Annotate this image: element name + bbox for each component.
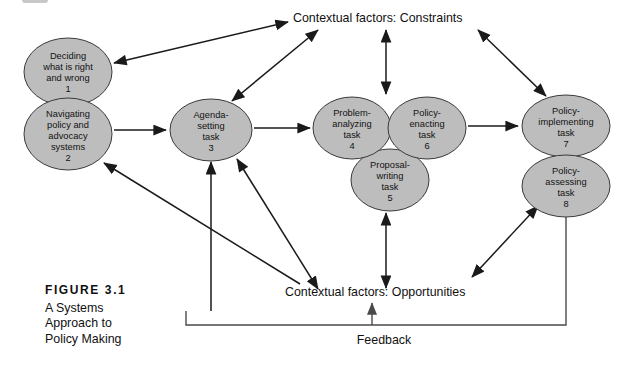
node-policy-assessing-task[interactable]: Policy- assessing task 8 — [522, 155, 610, 217]
node-1-line-2: and wrong — [46, 73, 89, 83]
node-6-line-1: enacting — [409, 119, 444, 129]
node-2-line-1: policy and — [47, 120, 89, 130]
edge-feedback-loop — [186, 217, 566, 325]
node-3-line-2: task — [202, 132, 219, 142]
figure-title-line-0: A Systems — [45, 301, 185, 317]
node-agenda-setting-task[interactable]: Agenda- setting task 3 — [170, 99, 252, 161]
node-3-number: 3 — [208, 143, 213, 153]
node-8-number: 8 — [563, 199, 568, 209]
figure-container: Proposal- writing task 5 Deciding what i… — [0, 0, 619, 369]
node-3-line-1: setting — [197, 121, 224, 131]
contextual-factors-opportunities-label: Contextual factors: Opportunities — [285, 285, 465, 299]
node-4-number: 4 — [349, 141, 354, 151]
edge-opportunities-node2 — [104, 163, 300, 284]
node-7-line-0: Policy- — [552, 106, 580, 116]
node-problem-analyzing-task[interactable]: Problem- analyzing task 4 — [313, 97, 391, 159]
figure-title-line-2: Policy Making — [45, 332, 185, 348]
node-7-line-2: task — [557, 128, 574, 138]
node-2-line-2: advocacy — [48, 131, 88, 141]
node-6-number: 6 — [424, 141, 429, 151]
figure-caption: FIGURE 3.1 A Systems Approach to Policy … — [45, 283, 185, 347]
node-2-line-0: Navigating — [46, 109, 90, 119]
node-5-number: 5 — [387, 193, 392, 203]
node-navigating-policy-and-advocacy-systems[interactable]: Navigating policy and advocacy systems 2 — [24, 98, 112, 170]
figure-title-line-1: Approach to — [45, 316, 185, 332]
node-4-line-2: task — [343, 130, 360, 140]
node-policy-implementing-task[interactable]: Policy- implementing task 7 — [522, 95, 610, 157]
node-5-line-1: writing — [376, 171, 404, 181]
node-1-line-0: Deciding — [50, 51, 86, 61]
edge-node3-constraints — [232, 30, 318, 101]
edge-node7-constraints — [478, 30, 546, 96]
node-2-line-3: systems — [51, 142, 85, 152]
figure-number: FIGURE 3.1 — [45, 283, 185, 299]
node-5-line-2: task — [381, 182, 398, 192]
edge-node1-constraints — [114, 22, 288, 63]
node-deciding-what-is-right-and-wrong[interactable]: Deciding what is right and wrong 1 — [24, 38, 112, 106]
node-6-line-0: Policy- — [413, 108, 441, 118]
node-8-line-2: task — [557, 188, 574, 198]
node-4-line-1: analyzing — [332, 119, 371, 129]
node-policy-enacting-task[interactable]: Policy- enacting task 6 — [388, 97, 466, 159]
node-8-line-0: Policy- — [552, 166, 580, 176]
node-1-number: 1 — [65, 84, 70, 94]
node-6-line-2: task — [418, 130, 435, 140]
edge-node8-opportunities — [472, 206, 538, 277]
node-8-line-1: assessing — [545, 177, 586, 187]
node-7-number: 7 — [563, 139, 568, 149]
feedback-label: Feedback — [357, 333, 412, 347]
node-5-line-0: Proposal- — [370, 160, 410, 170]
node-1-line-1: what is right — [42, 62, 93, 72]
contextual-factors-constraints-label: Contextual factors: Constraints — [293, 11, 462, 25]
node-3-line-0: Agenda- — [193, 110, 228, 120]
node-4-line-0: Problem- — [333, 108, 371, 118]
node-2-number: 2 — [65, 153, 70, 163]
node-7-line-1: implementing — [538, 117, 593, 127]
